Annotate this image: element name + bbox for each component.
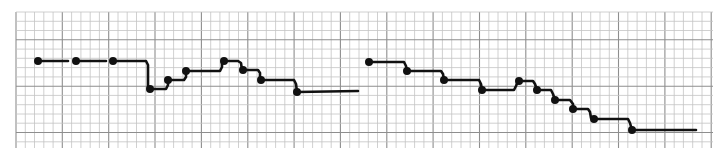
trace-line bbox=[369, 62, 696, 130]
trace-dot bbox=[109, 57, 117, 65]
trace-dot bbox=[34, 57, 42, 65]
trace-dot bbox=[440, 76, 448, 84]
trace-dot bbox=[164, 76, 172, 84]
trace-dot bbox=[590, 115, 598, 123]
trace-dot bbox=[293, 88, 301, 96]
trace-dot bbox=[365, 58, 373, 66]
trace-dot bbox=[515, 77, 523, 85]
trace-dot bbox=[257, 76, 265, 84]
trace-dot bbox=[220, 57, 228, 65]
trace-dot bbox=[478, 86, 486, 94]
grid-lines bbox=[16, 12, 713, 148]
trace-dot bbox=[182, 67, 190, 75]
trace-dot bbox=[239, 66, 247, 74]
graph-paper-diagram bbox=[0, 0, 728, 159]
diagram-canvas bbox=[0, 0, 728, 159]
trace-dot bbox=[628, 126, 636, 134]
trace-dot bbox=[569, 105, 577, 113]
trace-dot bbox=[146, 85, 154, 93]
trace-dot bbox=[403, 67, 411, 75]
trace-dot bbox=[72, 57, 80, 65]
trace-dot bbox=[551, 96, 559, 104]
trace-dot bbox=[533, 86, 541, 94]
